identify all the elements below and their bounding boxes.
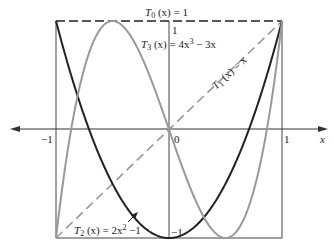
x-axis-right-arrow-icon: [318, 126, 328, 132]
x-axis-left-arrow-icon: [10, 126, 20, 132]
y-tick-bottom: −1: [171, 226, 183, 238]
tick-0: 0: [174, 133, 180, 145]
t1-label: T1 (x) = x: [209, 53, 250, 93]
y-tick-top: 1: [172, 24, 178, 36]
t0-label: T0 (x) = 1: [145, 6, 188, 20]
t2-label: T2 (x) = 2x2 −1: [74, 223, 141, 238]
t3-label: T3 (x) = 4x3 − 3x: [141, 37, 217, 52]
x-axis-label: x: [319, 133, 325, 145]
tick-neg1: −1: [41, 133, 53, 145]
chebyshev-chart: −1 0 1 x 1 −1 T0 (x) = 1 T3 (x) = 4x3 − …: [0, 0, 334, 246]
tick-1: 1: [284, 133, 290, 145]
